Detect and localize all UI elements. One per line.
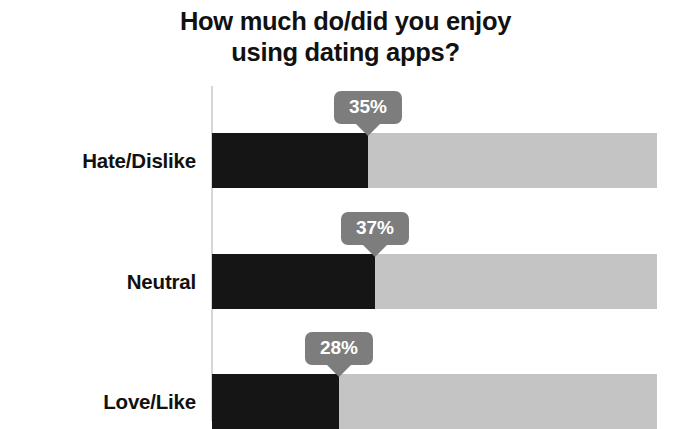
chart-title: How much do/did you enjoy using dating a… (0, 6, 691, 68)
category-label-neutral: Neutral (0, 254, 196, 309)
bar-fill-hate-dislike (212, 133, 368, 188)
callout-pointer-icon (355, 123, 381, 136)
table-row: Neutral 37% (0, 254, 691, 309)
value-callout-label: 37% (341, 212, 409, 245)
bar-fill-love-like (212, 374, 339, 429)
value-callout-label: 28% (305, 332, 373, 365)
bar-track-neutral (212, 254, 657, 309)
bar-track-love-like (212, 374, 657, 429)
value-callout-label: 35% (334, 91, 402, 124)
callout-pointer-icon (362, 244, 388, 257)
bar-track-hate-dislike (212, 133, 657, 188)
category-label-love-like: Love/Like (0, 374, 196, 429)
category-label-hate-dislike: Hate/Dislike (0, 133, 196, 188)
plot-area: Hate/Dislike 35% Neutral 37% Love/Like (0, 86, 691, 421)
value-callout-hate-dislike: 35% (334, 91, 402, 124)
bar-fill-neutral (212, 254, 375, 309)
table-row: Love/Like 28% (0, 374, 691, 429)
value-callout-neutral: 37% (341, 212, 409, 245)
value-callout-love-like: 28% (305, 332, 373, 365)
table-row: Hate/Dislike 35% (0, 133, 691, 188)
callout-pointer-icon (326, 364, 352, 377)
